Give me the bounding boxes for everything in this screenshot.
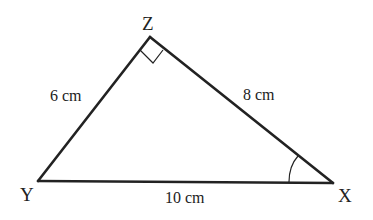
triangle-figure: Z Y X 6 cm 8 cm 10 cm [0,0,373,220]
vertex-label-z: Z [142,13,154,34]
side-label-yx: 10 cm [165,189,205,206]
side-label-yz: 6 cm [50,87,82,104]
right-angle-marker [140,50,163,63]
angle-arc-x [289,156,298,182]
side-label-zx: 8 cm [243,86,275,103]
vertex-label-x: X [338,185,352,206]
triangle-diagram: Z Y X 6 cm 8 cm 10 cm [0,0,373,220]
vertex-label-y: Y [20,184,34,205]
side-zx [150,37,333,183]
side-yz [38,37,150,181]
